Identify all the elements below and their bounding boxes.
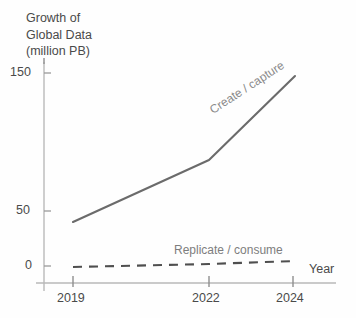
y-axis-tick-label-150: 150 xyxy=(10,65,31,79)
chart-title: Growth of Global Data (million PB) xyxy=(26,10,156,60)
y-axis-tick-label-0: 0 xyxy=(25,258,32,272)
series-line-replicate-consume xyxy=(73,261,295,267)
x-axis-label: Year xyxy=(309,262,334,276)
chart-container: Growth of Global Data (million PB) 150 5… xyxy=(0,0,356,318)
x-axis-tick-label-2022: 2022 xyxy=(192,291,220,305)
x-axis-tick-label-2019: 2019 xyxy=(57,291,85,305)
y-axis-tick-label-50: 50 xyxy=(16,203,30,217)
series-label-replicate-consume: Replicate / consume xyxy=(174,243,283,257)
series-line-create-capture xyxy=(73,76,295,222)
x-axis-tick-label-2024: 2024 xyxy=(276,291,304,305)
